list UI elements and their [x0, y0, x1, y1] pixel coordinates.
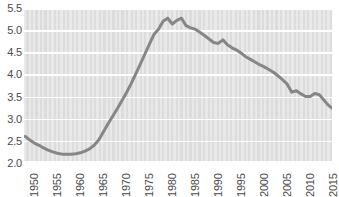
x-tick-label: 1995 — [236, 173, 247, 197]
x-tick-label: 1980 — [167, 173, 178, 197]
x-tick-label: 2000 — [259, 173, 270, 197]
series-line — [24, 8, 332, 163]
x-tick-label: 1950 — [29, 173, 40, 197]
x-tick-label: 2005 — [282, 173, 293, 197]
y-axis: 2.02.53.03.54.04.55.05.5 — [0, 0, 24, 166]
y-tick-label: 3.0 — [7, 113, 22, 124]
plot-area — [24, 8, 332, 163]
y-tick-label: 3.5 — [7, 91, 22, 102]
x-tick-label: 2015 — [328, 173, 339, 197]
x-tick-label: 1975 — [144, 173, 155, 197]
x-axis: 1950195519601965197019751980198519901995… — [24, 164, 332, 197]
y-tick-label: 5.0 — [7, 25, 22, 36]
line-chart: 2.02.53.03.54.04.55.05.5 195019551960196… — [0, 0, 339, 197]
y-tick-label: 5.5 — [7, 3, 22, 14]
y-tick-label: 2.0 — [7, 158, 22, 169]
y-tick-label: 2.5 — [7, 135, 22, 146]
x-tick-label: 1970 — [121, 173, 132, 197]
series-polyline — [25, 18, 332, 154]
x-tick-label: 1960 — [75, 173, 86, 197]
x-tick-label: 1965 — [98, 173, 109, 197]
x-tick-label: 1990 — [213, 173, 224, 197]
y-tick-label: 4.0 — [7, 69, 22, 80]
x-tick-label: 2010 — [305, 173, 316, 197]
x-tick-label: 1985 — [190, 173, 201, 197]
y-tick-label: 4.5 — [7, 47, 22, 58]
x-tick-label: 1955 — [52, 173, 63, 197]
